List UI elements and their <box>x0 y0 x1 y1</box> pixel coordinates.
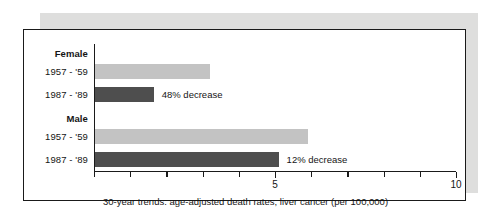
x-axis-tick <box>275 172 276 178</box>
y-axis-line <box>94 44 95 171</box>
x-axis-tick <box>347 172 348 177</box>
bar-period-label: 1987 - '89 <box>24 154 88 165</box>
x-axis-tick <box>311 172 312 177</box>
x-axis-tick-label: 5 <box>272 179 278 190</box>
bar-female-early <box>94 64 210 79</box>
figure-container: Female1957 - '591987 - '8948% decreaseMa… <box>0 0 503 224</box>
group-label-male: Male <box>24 113 88 124</box>
x-axis-tick <box>203 172 204 177</box>
bar-male-late <box>94 152 279 167</box>
plot-area: Female1957 - '591987 - '8948% decreaseMa… <box>24 30 467 202</box>
x-axis-tick <box>239 172 240 177</box>
x-axis-tick <box>456 172 457 178</box>
x-axis-tick-label: 10 <box>450 179 461 190</box>
chart-panel: Female1957 - '591987 - '8948% decreaseMa… <box>23 29 466 201</box>
bar-period-label: 1957 - '59 <box>24 66 88 77</box>
bar-male-early <box>94 129 308 144</box>
bar-female-late <box>94 87 154 102</box>
x-axis-tick <box>166 172 167 177</box>
bar-annotation: 12% decrease <box>287 154 348 165</box>
x-axis-tick <box>420 172 421 177</box>
x-axis-tick <box>94 172 95 177</box>
x-axis-tick <box>130 172 131 177</box>
chart-caption: 30-year trends: age-adjusted death rates… <box>24 196 467 207</box>
bar-period-label: 1987 - '89 <box>24 89 88 100</box>
group-label-female: Female <box>24 48 88 59</box>
bar-period-label: 1957 - '59 <box>24 131 88 142</box>
bar-annotation: 48% decrease <box>162 89 223 100</box>
x-axis-tick <box>384 172 385 177</box>
